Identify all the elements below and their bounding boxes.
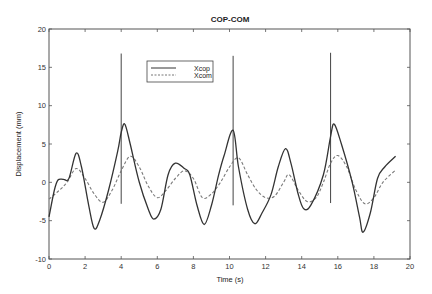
chart-title: COP-COM [211, 15, 250, 24]
y-tick-label: 10 [38, 101, 46, 110]
x-tick-label: 10 [225, 262, 233, 271]
y-tick-label: -5 [39, 216, 46, 225]
y-tick-label: 5 [42, 140, 46, 149]
x-tick-label: 0 [47, 262, 51, 271]
x-tick-label: 20 [406, 262, 414, 271]
x-tick-label: 16 [334, 262, 342, 271]
y-tick-label: 15 [38, 63, 46, 72]
x-tick-label: 18 [370, 262, 378, 271]
plot-area [49, 29, 410, 259]
y-tick-label: 0 [42, 178, 46, 187]
legend-label-xcom: Xcom [194, 72, 212, 79]
x-tick-label: 4 [119, 262, 123, 271]
x-tick-label: 6 [155, 262, 159, 271]
x-tick-label: 12 [261, 262, 269, 271]
x-axis-label: Time (s) [216, 275, 244, 284]
legend: Xcop Xcom [147, 61, 213, 82]
x-tick-label: 2 [83, 262, 87, 271]
chart: COP-COM 02468101214161820 -10-505101520 … [0, 0, 432, 294]
y-tick-label: 20 [38, 25, 46, 34]
y-tick-label: -10 [35, 255, 46, 264]
y-axis-label: Displacement (mm) [14, 111, 23, 177]
x-tick-label: 14 [298, 262, 306, 271]
x-tick-label: 8 [191, 262, 195, 271]
